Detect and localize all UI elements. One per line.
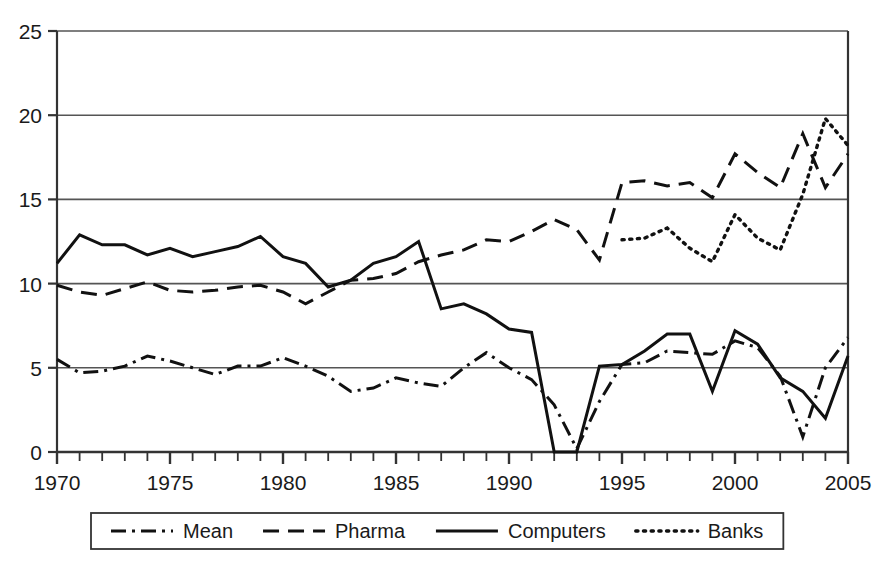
y-tick-label-0: 0 xyxy=(30,441,42,464)
x-tick-label-1985: 1985 xyxy=(373,471,420,494)
y-tick-label-5: 5 xyxy=(30,357,42,380)
x-tick-label-1975: 1975 xyxy=(147,471,194,494)
legend-label-pharma: Pharma xyxy=(335,520,406,542)
y-axis-tick-labels: 0510152025 xyxy=(19,20,42,464)
legend-label-mean: Mean xyxy=(183,520,233,542)
x-tick-label-1970: 1970 xyxy=(34,471,81,494)
x-tick-label-1980: 1980 xyxy=(260,471,307,494)
legend-label-banks: Banks xyxy=(708,520,764,542)
x-tick-label-1990: 1990 xyxy=(486,471,533,494)
x-tick-label-2005: 2005 xyxy=(825,471,872,494)
y-tick-label-10: 10 xyxy=(19,273,42,296)
chart-legend: MeanPharmaComputersBanks xyxy=(91,513,783,549)
x-tick-label-1995: 1995 xyxy=(599,471,646,494)
y-tick-label-25: 25 xyxy=(19,20,42,43)
x-tick-label-2000: 2000 xyxy=(712,471,759,494)
x-axis-ticks xyxy=(57,452,848,464)
chart-figure: 0510152025 19701975198019851990199520002… xyxy=(0,0,875,581)
legend-label-computers: Computers xyxy=(508,520,606,542)
y-tick-label-15: 15 xyxy=(19,188,42,211)
line-chart: 0510152025 19701975198019851990199520002… xyxy=(0,0,875,581)
x-axis-tick-labels: 19701975198019851990199520002005 xyxy=(34,471,872,494)
y-axis-ticks xyxy=(48,31,57,452)
y-tick-label-20: 20 xyxy=(19,104,42,127)
plot-background xyxy=(57,31,848,452)
